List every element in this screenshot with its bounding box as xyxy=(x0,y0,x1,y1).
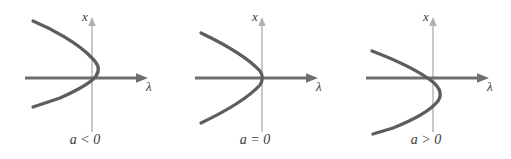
panel-caption: a < 0 xyxy=(0,133,170,147)
vertical-axis-label: x xyxy=(82,10,88,23)
parabola-curve xyxy=(372,51,440,134)
panel-caption: a = 0 xyxy=(170,133,340,147)
horizontal-axis-label: λ xyxy=(146,80,152,93)
horizontal-axis-label: λ xyxy=(487,80,493,93)
bifurcation-figure: x λ a < 0 x λ a = 0 x λ a > 0 xyxy=(0,0,511,159)
vertical-axis-arrowhead xyxy=(258,17,266,26)
panel-caption: a > 0 xyxy=(341,133,511,147)
vertical-axis-arrowhead xyxy=(429,17,437,26)
vertical-axis-label: x xyxy=(252,10,258,23)
horizontal-axis-label: λ xyxy=(316,80,322,93)
panel-a-positive: x λ a > 0 xyxy=(341,0,511,159)
parabola-curve xyxy=(33,21,98,107)
panel-a-zero: x λ a = 0 xyxy=(170,0,340,159)
vertical-axis-label: x xyxy=(423,10,429,23)
vertical-axis-arrowhead xyxy=(88,17,96,26)
panel-a-negative: x λ a < 0 xyxy=(0,0,170,159)
